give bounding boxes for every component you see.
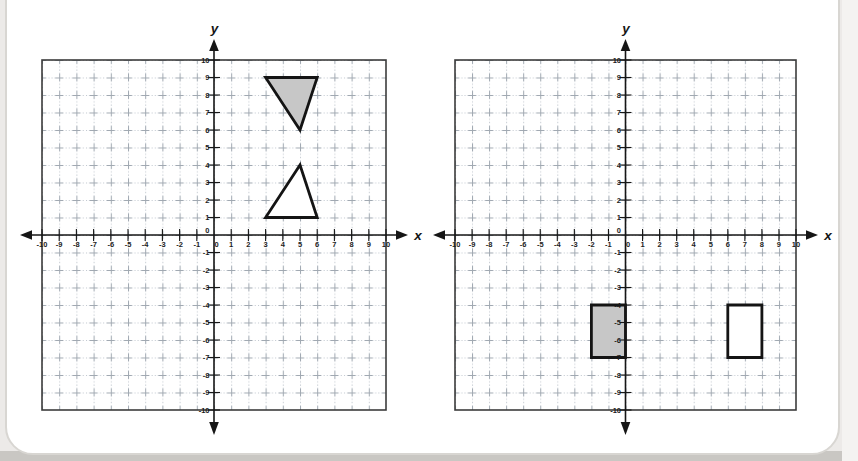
x-tick-label: -3 — [571, 240, 578, 249]
y-tick-label: -5 — [203, 318, 210, 327]
y-tick-label: 0 — [617, 226, 621, 235]
x-tick-label: -4 — [554, 240, 561, 249]
x-axis-title: x — [823, 228, 832, 243]
y-tick-label: -6 — [614, 336, 621, 345]
x-tick-label: -5 — [537, 240, 544, 249]
x-tick-label: -9 — [469, 240, 476, 249]
x-tick-label: 1 — [229, 240, 233, 249]
y-tick-label: -1 — [203, 248, 210, 257]
x-tick-label: -1 — [605, 240, 612, 249]
x-tick-label: 3 — [675, 240, 679, 249]
y-tick-label: 9 — [205, 73, 209, 82]
x-tick-label: 10 — [792, 240, 800, 249]
x-tick-label: -7 — [503, 240, 510, 249]
y-tick-label: -6 — [203, 336, 210, 345]
y-tick-label: -7 — [203, 353, 210, 362]
y-axis-title: y — [210, 21, 220, 36]
y-tick-label: -2 — [203, 266, 210, 275]
y-axis-arrow-bottom-icon — [209, 422, 219, 435]
x-tick-label: 8 — [350, 240, 354, 249]
page-background: -10-9-8-7-6-5-4-3-2-10123456789101098765… — [0, 0, 858, 461]
x-tick-label: -4 — [142, 240, 149, 249]
y-tick-label: -7 — [614, 353, 621, 362]
y-tick-label: 8 — [617, 91, 621, 100]
x-tick-label: 7 — [332, 240, 336, 249]
y-tick-label: -10 — [610, 406, 621, 415]
y-tick-label: 5 — [205, 143, 209, 152]
x-tick-label: 8 — [760, 240, 764, 249]
y-axis-arrow-top-icon — [209, 39, 219, 51]
shaded-rectangle — [591, 305, 625, 358]
y-tick-label: 6 — [617, 126, 621, 135]
y-tick-label: -8 — [203, 371, 210, 380]
x-tick-label: -5 — [125, 240, 132, 249]
x-tick-label: -6 — [107, 240, 114, 249]
x-tick-label: 6 — [726, 240, 730, 249]
y-tick-label: -9 — [614, 388, 621, 397]
y-tick-label: 5 — [617, 143, 621, 152]
y-tick-label: 10 — [613, 56, 621, 65]
y-tick-label: 3 — [617, 178, 621, 187]
y-tick-label: -3 — [203, 283, 210, 292]
x-axis-arrow-right-icon — [806, 230, 818, 240]
x-axis-title: x — [413, 228, 422, 243]
x-tick-label: 9 — [367, 240, 371, 249]
y-tick-label: -5 — [614, 318, 621, 327]
x-tick-label: -6 — [520, 240, 527, 249]
y-tick-label: 7 — [205, 108, 209, 117]
y-tick-label: 1 — [205, 213, 209, 222]
y-tick-label: 8 — [205, 91, 209, 100]
x-axis-arrow-right-icon — [396, 230, 408, 240]
y-axis-title: y — [621, 21, 631, 36]
y-tick-label: 10 — [201, 56, 209, 65]
y-tick-label: 6 — [205, 126, 209, 135]
y-axis-arrow-bottom-icon — [621, 422, 631, 435]
x-tick-label: 3 — [264, 240, 268, 249]
y-axis-arrow-top-icon — [621, 39, 631, 51]
x-tick-label: 2 — [246, 240, 250, 249]
x-tick-label: -2 — [588, 240, 595, 249]
x-tick-label: 1 — [640, 240, 644, 249]
y-tick-label: 3 — [205, 178, 209, 187]
x-tick-label: 5 — [298, 240, 302, 249]
x-tick-label: 0 — [214, 240, 218, 249]
y-tick-label: -10 — [199, 406, 210, 415]
y-tick-label: 9 — [617, 73, 621, 82]
x-axis-arrow-left-icon — [20, 230, 32, 240]
x-axis-arrow-left-icon — [433, 230, 445, 240]
worksheet-figure: -10-9-8-7-6-5-4-3-2-10123456789101098765… — [0, 0, 858, 461]
y-tick-label: -4 — [203, 301, 210, 310]
x-tick-label: -8 — [486, 240, 493, 249]
y-tick-label: -1 — [614, 248, 621, 257]
x-tick-label: 2 — [658, 240, 662, 249]
x-tick-label: -9 — [56, 240, 63, 249]
x-tick-label: 10 — [382, 240, 390, 249]
y-tick-label: 7 — [617, 108, 621, 117]
x-tick-label: -3 — [159, 240, 166, 249]
y-tick-label: -2 — [614, 266, 621, 275]
x-tick-label: -10 — [37, 240, 48, 249]
x-tick-label: -7 — [90, 240, 97, 249]
x-tick-label: -8 — [73, 240, 80, 249]
y-tick-label: -8 — [614, 371, 621, 380]
outline-rectangle — [728, 305, 762, 358]
y-tick-label: 0 — [205, 226, 209, 235]
coordinate-plane-right: -10-9-8-7-6-5-4-3-2-10123456789101098765… — [433, 21, 832, 435]
y-tick-label: -3 — [614, 283, 621, 292]
coordinate-plane-left: -10-9-8-7-6-5-4-3-2-10123456789101098765… — [20, 21, 422, 435]
x-tick-label: 0 — [626, 240, 630, 249]
y-tick-label: 2 — [617, 196, 621, 205]
x-tick-label: 7 — [743, 240, 747, 249]
y-tick-label: 2 — [205, 196, 209, 205]
y-tick-label: -9 — [203, 388, 210, 397]
x-tick-label: 9 — [777, 240, 781, 249]
x-tick-label: -2 — [176, 240, 183, 249]
y-tick-label: -4 — [614, 301, 621, 310]
x-tick-label: 5 — [709, 240, 713, 249]
x-tick-label: -10 — [450, 240, 461, 249]
x-tick-label: -1 — [193, 240, 200, 249]
x-tick-label: 6 — [315, 240, 319, 249]
y-tick-label: 1 — [617, 213, 621, 222]
